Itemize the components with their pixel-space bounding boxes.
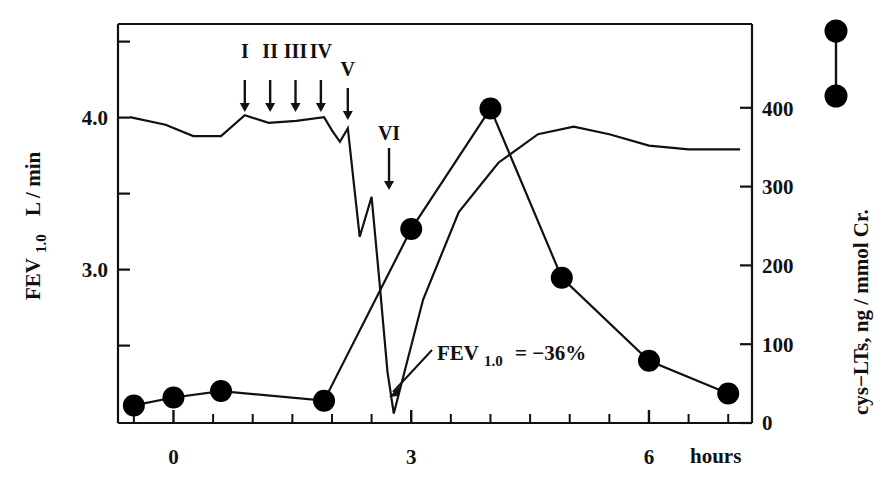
stimulus-arrow-head-icon <box>240 103 250 112</box>
data-point-marker <box>638 350 660 372</box>
stimulus-arrow-head-icon <box>316 103 326 112</box>
left-axis-ticks <box>118 42 130 346</box>
stimulus-arrow-head-icon <box>265 103 275 112</box>
right-tick-label-400: 400 <box>762 97 794 121</box>
data-point-marker <box>479 98 501 120</box>
stimulus-label-VI: VI <box>378 122 400 144</box>
right-axis-title-text: cys−LTs, ng / mmol Cr. <box>849 209 873 415</box>
left-axis-title-sub: 1.0 <box>33 234 49 253</box>
data-point-marker <box>162 386 184 408</box>
chart-canvas: 4.0 3.0 FEV 1.0 L / min 0 100 200 300 40… <box>0 0 886 496</box>
left-axis-title: FEV 1.0 L / min <box>21 151 49 300</box>
stimulus-label-V: V <box>341 58 356 80</box>
data-point-marker <box>717 382 739 404</box>
data-point-marker <box>123 394 145 416</box>
stimulus-label-III: III <box>284 40 308 62</box>
stimulus-arrow-head-icon <box>384 181 394 190</box>
left-tick-label-4.0: 4.0 <box>82 106 108 130</box>
left-tick-label-3.0: 3.0 <box>82 258 108 282</box>
stimulus-arrows <box>240 80 394 190</box>
x-tick-label-0: 0 <box>168 445 179 469</box>
annotation-subscript: 1.0 <box>484 353 503 369</box>
data-point-marker <box>313 390 335 412</box>
right-tick-label-200: 200 <box>762 254 794 278</box>
stimulus-label-I: I <box>241 40 249 62</box>
legend-marker-top-icon <box>825 20 848 43</box>
data-point-marker <box>400 218 422 240</box>
x-axis-ticks <box>134 410 728 423</box>
legend-marker-bottom-icon <box>825 85 848 108</box>
x-tick-label-3: 3 <box>406 445 417 469</box>
x-axis-unit-label: hours <box>690 444 741 468</box>
right-axis-ticks <box>740 108 752 423</box>
right-axis-title: cys−LTs, ng / mmol Cr. <box>849 209 873 415</box>
stimulus-arrow-head-icon <box>291 103 301 112</box>
left-axis-title-main: FEV <box>21 258 45 300</box>
left-axis-title-unit: L / min <box>21 151 45 216</box>
right-tick-label-0: 0 <box>762 411 773 435</box>
stimulus-label-II: II <box>262 40 278 62</box>
x-tick-label-6: 6 <box>644 445 655 469</box>
legend-symbol <box>825 20 848 108</box>
fev-drop-annotation: FEV 1.0 = −36% <box>389 341 586 397</box>
stimulus-arrow-head-icon <box>343 111 353 120</box>
annotation-value-text: = −36% <box>515 341 586 365</box>
x-axis-tick-labels: 036 <box>168 445 654 469</box>
data-point-marker <box>210 380 232 402</box>
data-point-marker <box>551 267 573 289</box>
annotation-main-text: FEV <box>437 341 479 365</box>
figure-container: 4.0 3.0 FEV 1.0 L / min 0 100 200 300 40… <box>0 0 886 496</box>
right-tick-label-300: 300 <box>762 175 794 199</box>
stimulus-label-IV: IV <box>310 40 333 62</box>
right-tick-label-100: 100 <box>762 333 794 357</box>
